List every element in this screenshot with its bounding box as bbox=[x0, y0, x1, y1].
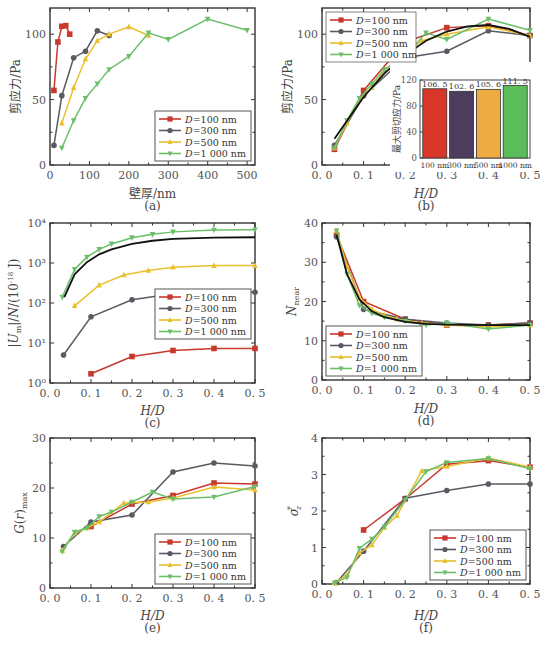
marker-square bbox=[51, 88, 57, 94]
legend-entry: D=300 nm bbox=[184, 548, 237, 559]
legend-entry: D=1 000 nm bbox=[184, 326, 246, 337]
x-tick-label: 0. 5 bbox=[520, 384, 541, 397]
marker-square bbox=[444, 25, 450, 31]
inset-y-tick: 120 bbox=[401, 75, 417, 85]
x-tick-label: 0. 1 bbox=[81, 387, 102, 400]
x-tick-label: 0. 2 bbox=[122, 387, 143, 400]
x-tick-label: 200 bbox=[118, 169, 139, 182]
marker-square bbox=[129, 354, 135, 360]
y-tick-label: 0 bbox=[311, 374, 318, 387]
x-tick-label: 0. 3 bbox=[436, 588, 457, 601]
inset-bar bbox=[503, 86, 527, 158]
marker-circle bbox=[129, 297, 135, 303]
inset-bar-value: 105. 6 bbox=[476, 80, 501, 89]
marker-square bbox=[211, 346, 217, 352]
x-tick-label: 0. 3 bbox=[163, 387, 184, 400]
y-tick-label: 20 bbox=[32, 482, 46, 495]
chart-a: 0100200300400500050100壁厚/nm剪应力/Pa(a)D=10… bbox=[0, 0, 270, 215]
y-tick-label: 0 bbox=[39, 582, 46, 595]
legend-entry: D=1 000 nm bbox=[184, 148, 246, 159]
legend-entry: D=500 nm bbox=[184, 560, 237, 571]
chart-d: 0. 00. 10. 20. 30. 40. 5010203040H/DNnea… bbox=[270, 215, 541, 430]
legend-entry: D=100 nm bbox=[184, 292, 237, 303]
marker-square bbox=[442, 535, 447, 540]
legend: D=100 nmD=300 nmD=500 nmD=1 000 nm bbox=[326, 326, 422, 376]
marker-square bbox=[338, 331, 343, 336]
marker-circle bbox=[252, 463, 258, 469]
marker-circle bbox=[444, 488, 450, 494]
marker-square bbox=[88, 371, 94, 377]
marker-circle bbox=[88, 314, 94, 320]
marker-square bbox=[167, 539, 172, 544]
y-tick-label: 10¹ bbox=[28, 337, 46, 350]
x-tick-label: 0. 1 bbox=[353, 169, 374, 182]
inset-bar bbox=[450, 91, 474, 158]
y-tick-label: 1 bbox=[311, 542, 318, 555]
chart-panel-b: 0. 00. 10. 20. 30. 40. 5050100H/D剪应力/Pa(… bbox=[270, 0, 540, 215]
legend-entry: D=500 nm bbox=[459, 556, 512, 567]
marker-circle bbox=[83, 48, 89, 54]
chart-panel-d: 0. 00. 10. 20. 30. 40. 5010203040H/DNnea… bbox=[270, 215, 540, 430]
x-tick-label: 0. 5 bbox=[245, 387, 266, 400]
y-tick-label: 50 bbox=[304, 94, 318, 107]
legend: D=100 nmD=300 nmD=500 nmD=1 000 nm bbox=[155, 534, 251, 584]
x-tick-label: 0. 2 bbox=[395, 588, 416, 601]
marker-circle bbox=[167, 551, 172, 556]
y-axis-label: Nnear bbox=[285, 287, 301, 317]
inset-bar-value: 102. 6 bbox=[449, 82, 474, 91]
inset-x-label: 100 nm bbox=[420, 161, 449, 170]
x-tick-label: 0. 4 bbox=[204, 387, 225, 400]
y-tick-label: 10² bbox=[28, 297, 46, 310]
chart-c: 0. 00. 10. 20. 30. 40. 510⁰10¹10²10³10⁴H… bbox=[0, 215, 270, 430]
inset-x-label: 1000 nm bbox=[498, 161, 531, 170]
legend-entry: D=500 nm bbox=[355, 38, 408, 49]
marker-square bbox=[167, 116, 172, 121]
inset-bar-value: 106. 5 bbox=[422, 80, 447, 89]
x-tick-label: 0 bbox=[47, 169, 54, 182]
marker-circle bbox=[338, 343, 343, 348]
legend-entry: D=500 nm bbox=[184, 315, 237, 326]
inset-y-label: 最大剪切应力/Pa bbox=[391, 84, 402, 153]
y-tick-label: 30 bbox=[304, 256, 318, 269]
legend-entry: D=500 nm bbox=[355, 352, 408, 363]
legend-entry: D=300 nm bbox=[184, 125, 237, 136]
x-tick-label: 0. 4 bbox=[204, 592, 225, 605]
legend-entry: D=100 nm bbox=[355, 329, 408, 340]
x-tick-label: 0. 5 bbox=[520, 588, 541, 601]
y-tick-label: 10³ bbox=[28, 257, 46, 270]
marker-square bbox=[170, 348, 176, 354]
marker-circle bbox=[167, 128, 172, 133]
x-tick-label: 0. 1 bbox=[81, 592, 102, 605]
y-axis-label: 剪应力/Pa bbox=[8, 59, 23, 114]
inset-bar bbox=[476, 89, 500, 158]
chart-b: 0. 00. 10. 20. 30. 40. 5050100H/D剪应力/Pa(… bbox=[270, 0, 541, 215]
x-tick-label: 0. 2 bbox=[122, 592, 143, 605]
marker-circle bbox=[61, 352, 67, 358]
legend-entry: D=300 nm bbox=[355, 340, 408, 351]
marker-square bbox=[167, 294, 172, 299]
y-tick-label: 2 bbox=[311, 505, 318, 518]
marker-square bbox=[338, 17, 343, 22]
legend: D=100 nmD=300 nmD=500 nmD=1 000 nm bbox=[430, 530, 526, 580]
y-tick-label: 20 bbox=[304, 296, 318, 309]
y-axis-label: G(r)max bbox=[13, 492, 29, 534]
y-tick-label: 10⁴ bbox=[28, 217, 47, 230]
legend: D=100 nmD=300 nmD=500 nmD=1 000 nm bbox=[155, 111, 251, 161]
y-tick-label: 10 bbox=[304, 335, 318, 348]
y-tick-label: 0 bbox=[311, 159, 318, 172]
panel-caption: (f) bbox=[419, 621, 433, 635]
x-tick-label: 400 bbox=[197, 169, 218, 182]
legend-entry: D=300 nm bbox=[355, 26, 408, 37]
marker-circle bbox=[252, 290, 258, 296]
marker-circle bbox=[129, 512, 135, 518]
legend-entry: D=300 nm bbox=[184, 303, 237, 314]
inset-y-tick: 40 bbox=[406, 127, 417, 137]
y-tick-label: 4 bbox=[311, 432, 318, 445]
panel-caption: (c) bbox=[144, 416, 160, 430]
y-tick-label: 40 bbox=[304, 217, 318, 230]
marker-circle bbox=[95, 28, 101, 34]
inset-bar bbox=[423, 89, 447, 158]
legend: D=100 nmD=300 nmD=500 nmD=1 000 nm bbox=[326, 12, 417, 62]
x-tick-label: 0. 1 bbox=[353, 384, 374, 397]
legend-entry: D=500 nm bbox=[184, 137, 237, 148]
